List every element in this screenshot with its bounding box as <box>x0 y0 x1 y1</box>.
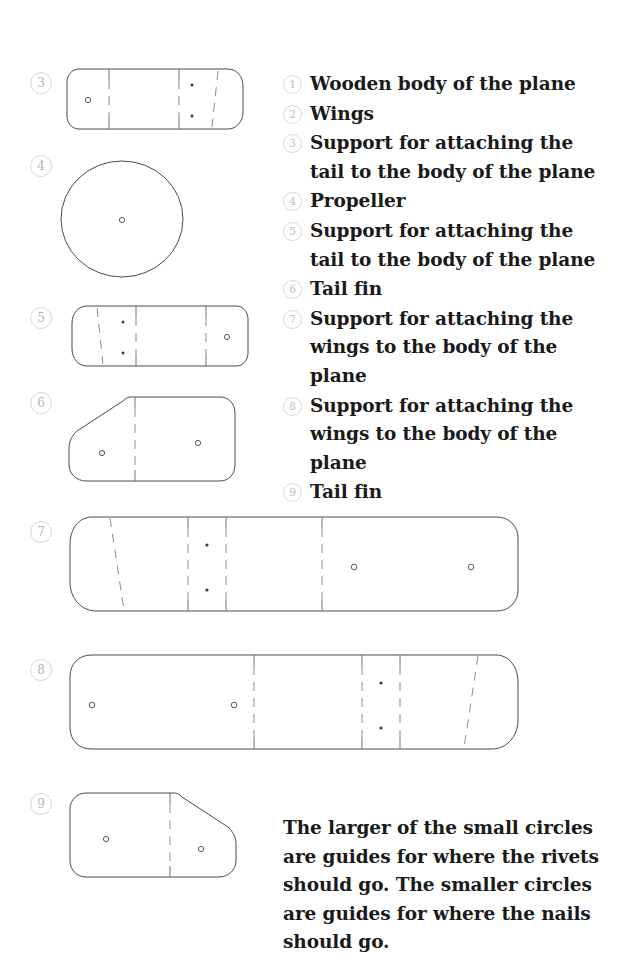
part-badge-3: 3 <box>30 72 52 94</box>
legend-item-8: 8 Support for attaching the wings to the… <box>283 392 613 478</box>
part-badge-6: 6 <box>30 392 52 414</box>
legend-badge-1: 1 <box>283 75 302 94</box>
legend-badge-2: 2 <box>283 105 302 124</box>
legend-item-6: 6 Tail fin <box>283 275 613 304</box>
part-figure-5 <box>69 305 249 367</box>
guides-note: The larger of the small circles are guid… <box>283 814 615 956</box>
legend-item-9: 9 Tail fin <box>283 478 613 507</box>
part-badge-9: 9 <box>30 793 52 815</box>
legend-label-7: Support for attaching the wings to the b… <box>310 305 613 391</box>
legend-label-1: Wooden body of the plane <box>310 70 576 99</box>
legend-item-5: 5 Support for attaching the tail to the … <box>283 217 613 274</box>
part-figure-3 <box>66 68 246 130</box>
legend-label-9: Tail fin <box>310 478 382 507</box>
part-badge-7: 7 <box>30 521 52 543</box>
legend-badge-5: 5 <box>283 222 302 241</box>
legend-label-5: Support for attaching the tail to the bo… <box>310 217 613 274</box>
part-figure-7 <box>68 514 520 614</box>
part-figure-4 <box>60 160 184 278</box>
legend-label-4: Propeller <box>310 187 405 216</box>
legend-badge-9: 9 <box>283 483 302 502</box>
part-badge-5: 5 <box>30 307 52 329</box>
legend-label-8: Support for attaching the wings to the b… <box>310 392 613 478</box>
legend-item-3: 3 Support for attaching the tail to the … <box>283 129 613 186</box>
legend-item-2: 2 Wings <box>283 100 613 129</box>
legend-item-7: 7 Support for attaching the wings to the… <box>283 305 613 391</box>
part-badge-4: 4 <box>30 155 52 177</box>
legend-label-2: Wings <box>310 100 374 129</box>
part-figure-8 <box>68 652 520 752</box>
legend-badge-6: 6 <box>283 280 302 299</box>
legend-badge-7: 7 <box>283 310 302 329</box>
legend-item-4: 4 Propeller <box>283 187 613 216</box>
legend-list: 1 Wooden body of the plane 2 Wings 3 Sup… <box>283 70 613 508</box>
legend-label-3: Support for attaching the tail to the bo… <box>310 129 613 186</box>
legend-badge-4: 4 <box>283 192 302 211</box>
legend-badge-8: 8 <box>283 397 302 416</box>
legend-label-6: Tail fin <box>310 275 382 304</box>
legend-badge-3: 3 <box>283 134 302 153</box>
part-figure-9 <box>68 792 238 878</box>
legend-item-1: 1 Wooden body of the plane <box>283 70 613 99</box>
part-figure-6 <box>68 396 236 482</box>
part-badge-8: 8 <box>30 659 52 681</box>
